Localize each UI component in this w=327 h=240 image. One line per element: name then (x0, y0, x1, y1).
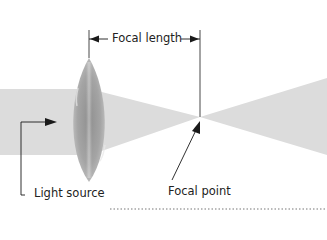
focal-point-arrowhead-icon (192, 121, 200, 134)
converging-light-cone (90, 89, 200, 155)
focal-point-label: Focal point (168, 186, 231, 198)
lens-center-highlight (86, 62, 92, 178)
focal-length-label: Focal length (112, 33, 182, 45)
focal-length-right-arrowhead-icon (190, 36, 199, 43)
light-source-label: Light source (34, 188, 105, 200)
focal-point-leader-line (172, 128, 197, 180)
focal-length-left-arrowhead-icon (90, 36, 99, 43)
diverging-light-cone (200, 78, 327, 155)
